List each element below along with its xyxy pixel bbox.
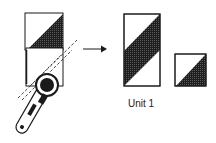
unit-small-square bbox=[175, 54, 206, 86]
arrow-right-icon bbox=[83, 46, 107, 53]
unit-tall-rectangle bbox=[124, 14, 160, 86]
top-square bbox=[25, 13, 63, 50]
rotary-cutter-icon bbox=[14, 74, 58, 135]
quilting-diagram bbox=[0, 0, 216, 143]
unit-caption: Unit 1 bbox=[128, 98, 154, 109]
